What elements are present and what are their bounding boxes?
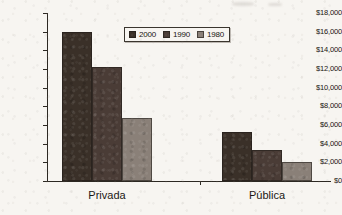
legend-item-label: 1990 bbox=[173, 30, 190, 39]
legend-swatch-icon bbox=[163, 31, 170, 38]
y-axis-tick-label: $14,000 bbox=[300, 46, 342, 54]
y-axis-tick-label: $18,000 bbox=[300, 9, 342, 17]
legend-item-label: 1980 bbox=[207, 30, 224, 39]
legend-swatch-icon bbox=[129, 31, 136, 38]
x-axis-category-label: Privada bbox=[57, 189, 157, 202]
x-axis-line bbox=[47, 181, 331, 182]
x-axis-category-separator bbox=[200, 181, 201, 185]
bar-privada-1980 bbox=[122, 118, 152, 181]
bar-pública-2000 bbox=[222, 132, 252, 181]
y-axis-tick-label: $10,000 bbox=[300, 84, 342, 92]
y-axis-tick-label: $12,000 bbox=[300, 65, 342, 73]
bar-pública-1980 bbox=[282, 162, 312, 181]
chart-figure: $0$2,000$4,000$6,000$8,000$10,000$12,000… bbox=[0, 0, 342, 215]
bar-privada-2000 bbox=[62, 32, 92, 181]
y-axis-tick-label: $6,000 bbox=[300, 121, 342, 129]
y-axis-tick-label: $8,000 bbox=[300, 102, 342, 110]
scan-artifact bbox=[232, 2, 254, 6]
y-axis-tick-label: $4,000 bbox=[300, 140, 342, 148]
legend-item-2000: 2000 bbox=[129, 30, 156, 39]
y-axis-line bbox=[47, 13, 48, 181]
x-axis-category-label: Pública bbox=[217, 189, 317, 202]
bar-privada-1990 bbox=[92, 67, 122, 181]
bar-pública-1990 bbox=[252, 150, 282, 181]
scan-artifact bbox=[268, 3, 282, 6]
legend-item-1990: 1990 bbox=[163, 30, 190, 39]
y-axis-tick-label: $16,000 bbox=[300, 28, 342, 36]
legend-swatch-icon bbox=[197, 31, 204, 38]
chart-legend: 2000 1990 1980 bbox=[124, 27, 230, 42]
legend-item-label: 2000 bbox=[139, 30, 156, 39]
legend-item-1980: 1980 bbox=[197, 30, 224, 39]
plot-area: $0$2,000$4,000$6,000$8,000$10,000$12,000… bbox=[0, 0, 342, 215]
